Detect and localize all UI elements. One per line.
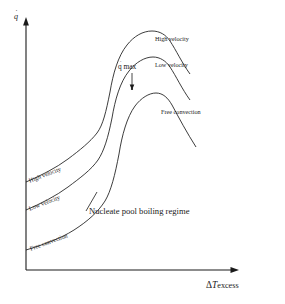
callout-high-velocity: High velocity — [155, 36, 189, 42]
callout-low-velocity: Low velocity — [155, 62, 188, 68]
nucleate-pool-boiling-regime-label: Nucleate pool boiling regime — [89, 207, 189, 216]
plot-canvas — [0, 0, 285, 304]
callout-free-convection: Free convection — [161, 109, 201, 115]
x-axis-label: ΔTexcess — [206, 281, 239, 290]
curve-low-velocity — [26, 57, 190, 210]
y-axis-label-dot-icon: ˙ — [15, 10, 18, 18]
regime-label-text: Nucleate pool boiling regime — [89, 206, 189, 216]
qmax-label: q˙ max — [118, 63, 136, 70]
y-axis-arrow-icon — [23, 17, 29, 26]
curve-high-velocity — [26, 31, 190, 182]
callout-free-convection-label: Free convection — [161, 108, 201, 115]
qmax-peak-dot-icon — [131, 88, 133, 90]
qmax-label-dot-icon: ˙ — [120, 60, 122, 67]
callout-high-velocity-label: High velocity — [155, 35, 189, 42]
y-axis-label: q˙ — [14, 13, 18, 21]
qmax-label-suffix: max — [124, 62, 137, 71]
callout-low-velocity-label: Low velocity — [155, 61, 188, 68]
qmax-pointer-group — [130, 73, 135, 90]
boiling-curve-figure: q˙ ΔTexcess q˙ max High velocity Low vel… — [0, 0, 285, 304]
x-axis-label-subscript: excess — [217, 281, 238, 290]
x-axis-arrow-icon — [231, 267, 240, 273]
